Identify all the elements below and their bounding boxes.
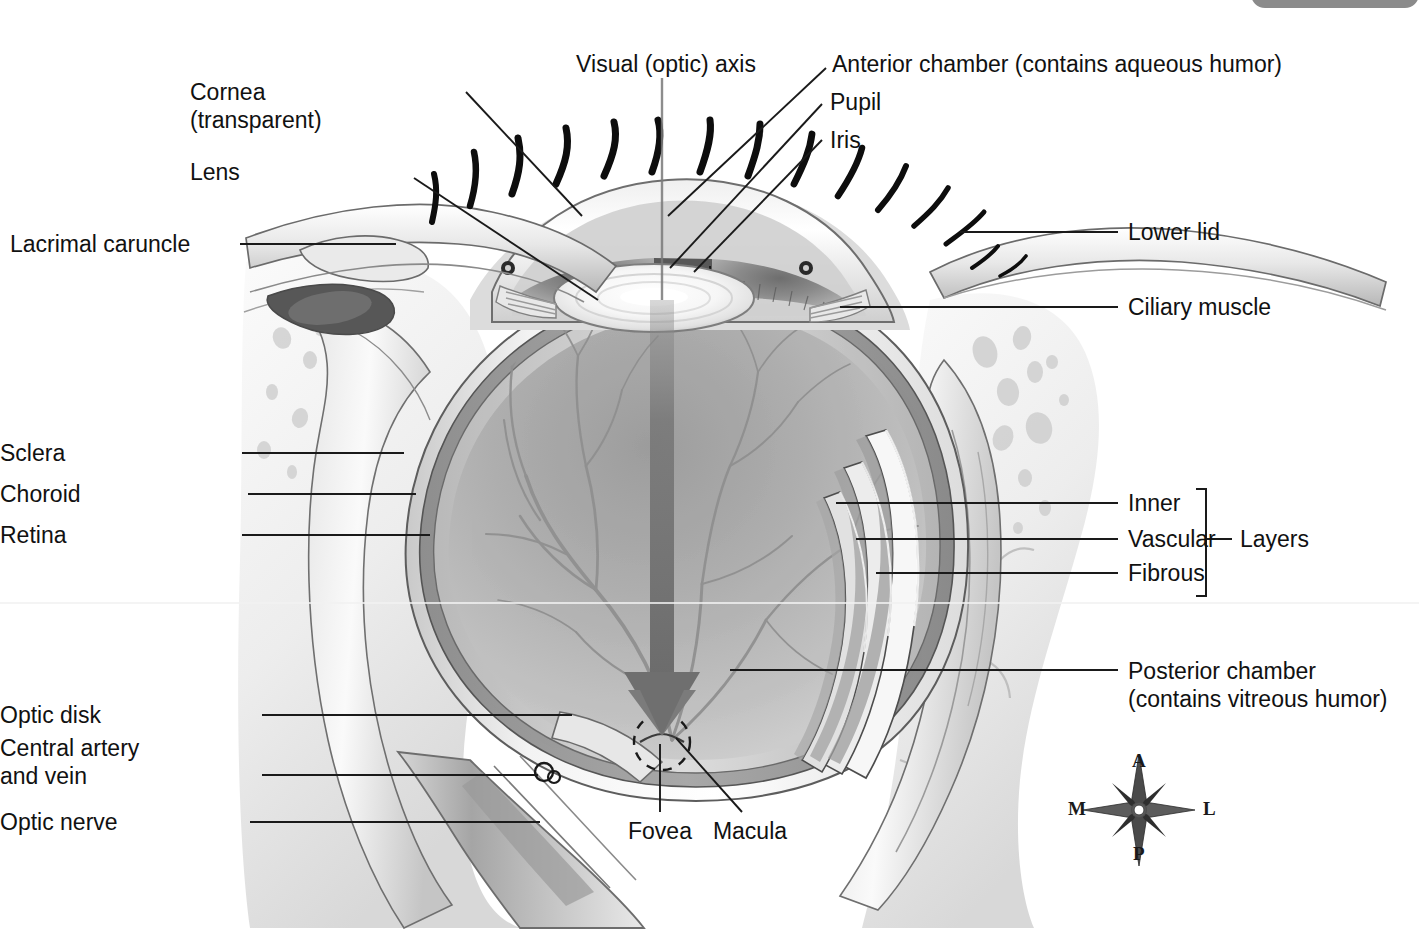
compass-label-anterior: A xyxy=(1132,750,1146,772)
label-central-artery-line1: Central artery xyxy=(0,734,252,762)
label-retina: Retina xyxy=(0,521,232,549)
label-lens: Lens xyxy=(190,158,412,186)
label-macula: Macula xyxy=(688,817,812,845)
compass-label-medial: M xyxy=(1068,798,1086,820)
label-central-artery-line2: and vein xyxy=(0,762,252,790)
page-corner-tab xyxy=(1251,0,1419,8)
label-choroid: Choroid xyxy=(0,480,238,508)
compass-label-posterior: P xyxy=(1133,843,1145,865)
label-layers: Layers xyxy=(1240,525,1309,553)
label-lower-lid: Lower lid xyxy=(1128,218,1220,246)
label-posterior-chamber-line2: (contains vitreous humor) xyxy=(1128,685,1388,713)
label-fibrous: Fibrous xyxy=(1128,559,1205,587)
label-cornea-line2: (transparent) xyxy=(190,106,468,134)
label-inner: Inner xyxy=(1128,489,1180,517)
label-lacrimal-caruncle: Lacrimal caruncle xyxy=(10,230,238,258)
label-vascular: Vascular xyxy=(1128,525,1216,553)
label-ciliary-muscle: Ciliary muscle xyxy=(1128,293,1271,321)
label-sclera: Sclera xyxy=(0,439,232,467)
label-iris: Iris xyxy=(830,126,861,154)
label-optic-nerve: Optic nerve xyxy=(0,808,240,836)
label-visual-axis: Visual (optic) axis xyxy=(556,50,776,78)
label-cornea-line1: Cornea xyxy=(190,78,468,106)
label-pupil: Pupil xyxy=(830,88,881,116)
label-posterior-chamber-line1: Posterior chamber xyxy=(1128,657,1316,685)
label-anterior-chamber: Anterior chamber (contains aqueous humor… xyxy=(832,50,1282,78)
label-optic-disk: Optic disk xyxy=(0,701,252,729)
compass-label-lateral: L xyxy=(1203,798,1216,820)
